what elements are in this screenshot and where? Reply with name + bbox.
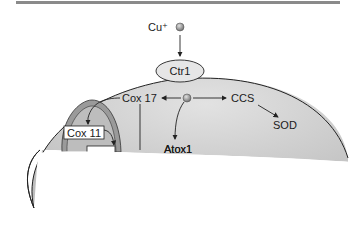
- cox11-label: Cox 11: [67, 127, 101, 139]
- copper-pathway-diagram: Cu⁺ Ctr1 Cox 17 CCS SOD Atox1 Cox 11 Ato…: [0, 0, 351, 233]
- copper-ion-cytosol: [183, 94, 191, 102]
- sod-label: SOD: [273, 119, 297, 131]
- atox1-label-top: Atox1: [164, 143, 192, 155]
- cox17-label: Cox 17: [122, 92, 157, 104]
- cu-ion-label: Cu⁺: [148, 21, 168, 33]
- cutout-edge: [38, 151, 351, 233]
- ccs-label: CCS: [231, 92, 254, 104]
- top-rule: [16, 1, 340, 4]
- ctr1-label: Ctr1: [170, 65, 191, 77]
- copper-ion-outside: [176, 23, 184, 31]
